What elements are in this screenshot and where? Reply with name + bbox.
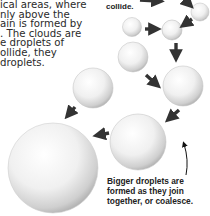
caption-line: Bigger droplets are bbox=[107, 176, 210, 186]
droplet-small-middle bbox=[162, 20, 182, 40]
droplet-medium-center bbox=[118, 42, 148, 72]
arrow-top-right-icon bbox=[140, 0, 158, 1]
droplet-medium-right bbox=[163, 66, 203, 106]
droplet-largest bbox=[8, 123, 98, 213]
arrow-down-left-icon bbox=[185, 19, 192, 24]
droplet-large bbox=[110, 114, 166, 170]
caption-line: formed as they join bbox=[107, 186, 210, 196]
arrow-left-icon bbox=[99, 133, 109, 135]
arrow-down-left-icon bbox=[69, 107, 75, 114]
curved-pointer-arrow-icon bbox=[184, 144, 187, 175]
arrow-down-right-icon bbox=[146, 75, 156, 84]
droplet-small-top bbox=[123, 18, 142, 37]
caption-line: together, or coalesce. bbox=[107, 196, 210, 206]
droplet-medium-left bbox=[73, 68, 113, 108]
coalesce-caption: Bigger droplets are formed as they join … bbox=[107, 176, 210, 206]
arrow-down-left-icon bbox=[170, 110, 179, 118]
collide-label: collide. bbox=[106, 2, 134, 11]
droplet-tiny-top-right bbox=[191, 3, 209, 21]
arrow-top-corner-icon bbox=[184, 0, 189, 4]
